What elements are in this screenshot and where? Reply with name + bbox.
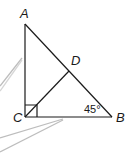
callout-line-upper (0, 58, 22, 86)
vertex-label-c: C (13, 110, 23, 125)
vertex-label-b: B (116, 110, 125, 125)
callout-line-upper-2 (0, 60, 22, 91)
callout-line-lower-2 (0, 120, 63, 152)
vertex-label-a: A (19, 6, 29, 21)
segment-cd (25, 71, 69, 117)
callout-line-lower-1 (0, 119, 63, 138)
angle-label-b: 45° (84, 103, 101, 115)
vertex-label-d: D (71, 53, 80, 68)
triangle-diagram: A D C B 45° (0, 0, 133, 155)
